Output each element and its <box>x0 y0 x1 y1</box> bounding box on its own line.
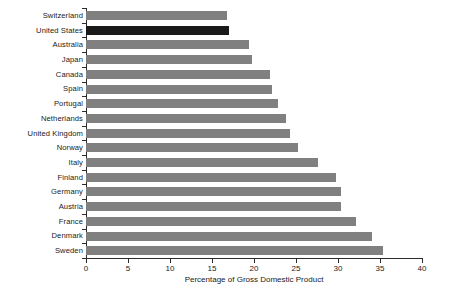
category-tick <box>82 155 86 156</box>
bar-row <box>86 155 422 170</box>
category-label: Japan <box>0 55 83 64</box>
category-label: Austria <box>0 202 83 211</box>
category-label: United States <box>0 26 83 35</box>
category-tick <box>82 229 86 230</box>
bar-row <box>86 67 422 82</box>
category-tick <box>82 170 86 171</box>
bar-chart: SwitzerlandUnited StatesAustraliaJapanCa… <box>0 0 449 297</box>
x-axis-title: Percentage of Gross Domestic Product <box>86 275 422 285</box>
category-label: Sweden <box>0 246 83 255</box>
bar <box>86 187 341 196</box>
bar-row <box>86 170 422 185</box>
bar-row <box>86 111 422 126</box>
category-tick <box>82 96 86 97</box>
category-tick <box>82 8 86 9</box>
bar-row <box>86 8 422 23</box>
value-tick-label: 10 <box>166 264 175 274</box>
category-label: France <box>0 217 83 226</box>
bar-row <box>86 199 422 214</box>
bar-row <box>86 37 422 52</box>
bar-row <box>86 82 422 97</box>
bar-row <box>86 140 422 155</box>
value-tick-label: 5 <box>126 264 130 274</box>
bar <box>86 26 229 35</box>
value-tick <box>170 259 171 263</box>
category-label: Portugal <box>0 99 83 108</box>
value-tick <box>380 259 381 263</box>
bar <box>86 11 227 20</box>
value-tick <box>212 259 213 263</box>
category-label: Switzerland <box>0 11 83 20</box>
bar <box>86 173 336 182</box>
bar-row <box>86 52 422 67</box>
category-tick <box>82 214 86 215</box>
category-tick <box>82 111 86 112</box>
category-tick <box>82 52 86 53</box>
value-tick <box>128 259 129 263</box>
bar-rows <box>86 8 422 258</box>
plot-area <box>86 8 422 258</box>
category-tick <box>82 37 86 38</box>
bar <box>86 246 383 255</box>
bar <box>86 129 290 138</box>
value-axis-ticks: 0510152025303540 <box>86 259 422 265</box>
bar-row <box>86 243 422 258</box>
bar <box>86 143 298 152</box>
category-label: Germany <box>0 187 83 196</box>
bar <box>86 114 286 123</box>
category-tick <box>82 23 86 24</box>
category-label: Netherlands <box>0 114 83 123</box>
value-tick-label: 30 <box>334 264 343 274</box>
value-tick <box>296 259 297 263</box>
category-tick <box>82 199 86 200</box>
category-label: United Kingdom <box>0 129 83 138</box>
category-label: Denmark <box>0 231 83 240</box>
bar <box>86 99 278 108</box>
bar-row <box>86 23 422 38</box>
category-tick <box>82 126 86 127</box>
category-tick <box>82 82 86 83</box>
category-tick <box>82 67 86 68</box>
category-axis-labels: SwitzerlandUnited StatesAustraliaJapanCa… <box>0 8 83 258</box>
value-tick-label: 40 <box>418 264 427 274</box>
category-tick <box>82 243 86 244</box>
bar-row <box>86 96 422 111</box>
value-tick <box>254 259 255 263</box>
bar <box>86 217 356 226</box>
value-tick-label: 15 <box>208 264 217 274</box>
category-label: Norway <box>0 143 83 152</box>
category-tick <box>82 140 86 141</box>
bar <box>86 40 249 49</box>
bar <box>86 158 318 167</box>
bar <box>86 85 272 94</box>
bar-row <box>86 229 422 244</box>
bar-row <box>86 126 422 141</box>
category-label: Spain <box>0 84 83 93</box>
category-label: Finland <box>0 173 83 182</box>
value-tick-label: 20 <box>250 264 259 274</box>
value-tick <box>86 259 87 263</box>
value-tick-label: 35 <box>376 264 385 274</box>
bar-row <box>86 184 422 199</box>
value-tick <box>422 259 423 263</box>
value-tick-label: 0 <box>84 264 88 274</box>
bar <box>86 55 252 64</box>
bar <box>86 232 372 241</box>
bar-row <box>86 214 422 229</box>
category-tick <box>82 184 86 185</box>
bar <box>86 202 341 211</box>
value-tick <box>338 259 339 263</box>
value-tick-label: 25 <box>292 264 301 274</box>
bar <box>86 70 270 79</box>
category-label: Canada <box>0 70 83 79</box>
category-label: Australia <box>0 40 83 49</box>
category-label: Italy <box>0 158 83 167</box>
